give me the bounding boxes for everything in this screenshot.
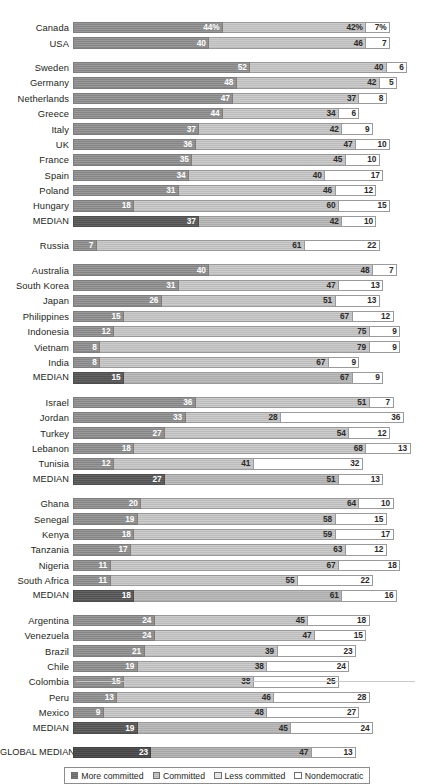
chart-group: Ghana206410Senegal195815Kenya185917Tanza… <box>0 496 434 604</box>
bar-segment: 23 <box>73 747 151 758</box>
segment-value: 8 <box>379 94 386 103</box>
segment-value: 42 <box>330 217 342 226</box>
bar-segment: 6 <box>339 108 359 119</box>
segment-value: 8 <box>92 358 99 367</box>
row-label: Tunisia <box>0 458 73 469</box>
bar-segment: 11 <box>73 560 111 571</box>
segment-value: 13 <box>398 444 410 453</box>
chart-row: France354510 <box>0 152 434 167</box>
legend-item[interactable]: Less committed <box>214 771 285 781</box>
segment-value: 13 <box>371 281 383 290</box>
segment-value: 67 <box>340 312 352 321</box>
row-label: India <box>0 357 73 368</box>
bar-segment: 18 <box>308 615 369 626</box>
row-label: Hungary <box>0 200 73 211</box>
segment-value: 16 <box>384 591 396 600</box>
segment-value: 31 <box>166 186 178 195</box>
stacked-bar: 15679 <box>73 372 383 383</box>
legend-swatch-icon <box>153 772 161 780</box>
bar-segment: 13 <box>339 280 383 291</box>
bar-segment: 15 <box>73 311 124 322</box>
chart-row: Greece44346 <box>0 106 434 121</box>
row-label: Lebanon <box>0 443 73 454</box>
row-label: Australia <box>0 265 73 276</box>
row-label: MEDIAN <box>0 723 73 734</box>
segment-value: 24 <box>142 631 154 640</box>
segment-value: 52 <box>238 63 250 72</box>
bar-segment: 10 <box>356 139 390 150</box>
segment-value: 67 <box>340 373 352 382</box>
segment-value: 36 <box>183 398 195 407</box>
bar-segment: 7 <box>373 264 397 275</box>
legend-item[interactable]: Nondemocratic <box>294 771 363 781</box>
segment-value: 24 <box>142 616 154 625</box>
stacked-bar: 364710 <box>73 139 390 150</box>
segment-value: 44% <box>203 23 222 32</box>
segment-value: 36 <box>183 140 195 149</box>
chart-row: Australia40487 <box>0 262 434 277</box>
bar-segment: 9 <box>370 341 401 352</box>
segment-value: 59 <box>323 530 335 539</box>
segment-value: 18 <box>122 591 134 600</box>
row-label: Vietnam <box>0 342 73 353</box>
row-label: Kenya <box>0 529 73 540</box>
segment-value: 24 <box>337 662 349 671</box>
bar-segment: 7 <box>370 397 394 408</box>
segment-value: 9 <box>392 327 399 336</box>
chart-row: Senegal195815 <box>0 511 434 526</box>
row-label: Nigeria <box>0 560 73 571</box>
bar-segment: 37 <box>73 216 199 227</box>
bar-segment: 37 <box>233 93 359 104</box>
legend-item[interactable]: Committed <box>153 771 206 781</box>
stacked-bar: 8679 <box>73 357 359 368</box>
bar-segment: 24 <box>267 661 349 672</box>
segment-value: 13 <box>367 296 379 305</box>
bar-segment: 17 <box>336 529 394 540</box>
segment-value: 47 <box>221 94 233 103</box>
bar-segment: 18 <box>339 560 400 571</box>
stacked-bar: 186116 <box>73 590 397 601</box>
stacked-bar: 40467 <box>73 37 390 48</box>
segment-value: 26 <box>149 296 161 305</box>
row-label: Poland <box>0 185 73 196</box>
bar-segment: 23 <box>278 645 356 656</box>
chart-row: Italy37429 <box>0 121 434 136</box>
segment-value: 47 <box>326 281 338 290</box>
segment-value: 15 <box>378 201 390 210</box>
bar-segment: 12 <box>346 544 387 555</box>
chart-group: GLOBAL MEDIAN234713 <box>0 745 434 760</box>
segment-value: 41 <box>241 459 253 468</box>
chart-row: Chile193824 <box>0 659 434 674</box>
chart-row: Sweden52406 <box>0 60 434 75</box>
legend-item[interactable]: More committed <box>71 771 144 781</box>
chart-row: Tanzania176312 <box>0 542 434 557</box>
bar-segment: 5 <box>380 77 397 88</box>
row-label: Colombia <box>0 676 73 687</box>
bar-segment: 8 <box>73 341 100 352</box>
row-label: Philippines <box>0 311 73 322</box>
bar-segment: 15 <box>339 200 390 211</box>
stacked-bar: 134628 <box>73 692 370 703</box>
chart-row: Vietnam8799 <box>0 339 434 354</box>
segment-value: 10 <box>367 155 379 164</box>
bar-segment: 15 <box>336 513 387 524</box>
segment-value: 37 <box>347 94 359 103</box>
chart-group: Israel36517Jordan332836Turkey275412Leban… <box>0 395 434 487</box>
row-label: Turkey <box>0 428 73 439</box>
stacked-bar: 8799 <box>73 341 400 352</box>
row-label: MEDIAN <box>0 474 73 485</box>
stacked-bar: 234713 <box>73 747 356 758</box>
bar-segment: 31 <box>73 185 179 196</box>
bar-segment: 36 <box>73 139 196 150</box>
chart-group: Canada44%42%7%USA40467 <box>0 20 434 51</box>
segment-value: 46 <box>354 39 366 48</box>
segment-value: 75 <box>357 327 369 336</box>
segment-value: 18 <box>122 530 134 539</box>
chart-row: MEDIAN275113 <box>0 472 434 487</box>
bar-segment: 47 <box>151 747 311 758</box>
segment-value: 21 <box>132 647 144 656</box>
footer-rule <box>76 681 415 682</box>
legend-label: More committed <box>81 771 143 781</box>
segment-value: 9 <box>351 358 358 367</box>
